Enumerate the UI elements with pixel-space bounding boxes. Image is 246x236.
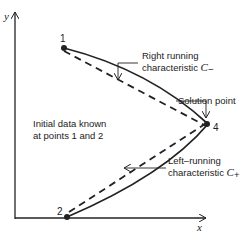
- initial-data-label-line1: Initial data known: [33, 118, 106, 129]
- left-running-label-line2: characteristic C+: [168, 166, 240, 180]
- y-axis-label: y: [3, 10, 9, 22]
- right-running-label-line1: Right running: [142, 50, 199, 61]
- point-2-marker: [64, 214, 70, 220]
- solution-point-label: Solution point: [178, 95, 236, 106]
- point-1-marker: [61, 45, 67, 51]
- right-running-label-line2: characteristic C−: [142, 61, 214, 75]
- x-axis-label: x: [196, 221, 202, 233]
- point-2-label: 2: [57, 206, 63, 217]
- characteristics-diagram: y x 1 2 4 Right running characteristic C…: [0, 0, 246, 236]
- initial-data-label-line2: at points 1 and 2: [33, 130, 103, 141]
- point-4-label: 4: [213, 122, 219, 133]
- point-4-marker: [204, 121, 210, 127]
- left-running-label-line1: Left–running: [168, 155, 221, 166]
- point-1-label: 1: [60, 33, 66, 44]
